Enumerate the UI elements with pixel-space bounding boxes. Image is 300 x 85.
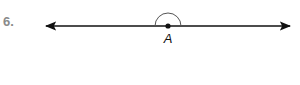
line-diagram: A [0,0,300,85]
point-a-dot [165,23,170,28]
point-a-label: A [163,31,173,46]
